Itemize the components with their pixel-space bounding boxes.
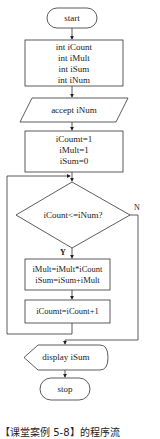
init-line-1: iCoumt=1: [25, 134, 123, 145]
process-line-1: iMult=iMult*iCount: [25, 264, 110, 275]
declare-line-1: int iCount: [25, 42, 123, 53]
input-label: accept iNum: [20, 105, 128, 116]
no-label: N: [132, 203, 142, 214]
stop-label: stop: [40, 384, 90, 395]
init-line-2: iMult=1: [25, 145, 123, 156]
output-label: display iSum: [24, 352, 108, 363]
process-line-2: iSum=iSum+iMult: [25, 275, 110, 286]
figure-caption: 【课堂案例 5-8】的程序流: [0, 424, 160, 439]
start-label: start: [47, 13, 97, 24]
yes-label: Y: [58, 248, 68, 259]
declare-line-2: int iMult: [25, 53, 123, 64]
increment-label: iCoumt=iCount+1: [25, 306, 110, 317]
decision-label: iCount<=iNum?: [16, 210, 130, 221]
declare-line-4: int iNum: [25, 75, 123, 86]
init-line-3: iSum=0: [25, 156, 123, 167]
declare-line-3: int iSum: [25, 64, 123, 75]
